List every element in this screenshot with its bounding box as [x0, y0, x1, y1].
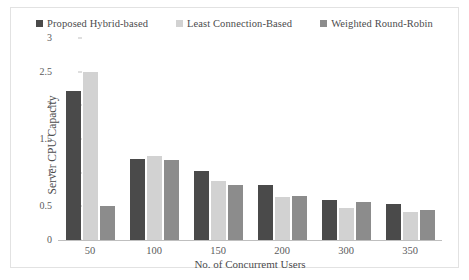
- bar-150-series-0[interactable]: [194, 171, 209, 240]
- bar-group-100: [122, 38, 186, 240]
- y-axis-tick-label: 0.5: [40, 201, 53, 211]
- bar-group-300: [314, 38, 378, 240]
- x-axis-tick-label: 150: [210, 245, 226, 257]
- legend-label: Weighted Round-Robin: [331, 18, 433, 29]
- bar-100-series-2[interactable]: [164, 160, 179, 240]
- bar-200-series-0[interactable]: [258, 185, 273, 240]
- bar-200-series-1[interactable]: [275, 197, 290, 240]
- x-axis-tick-label: 100: [146, 245, 162, 257]
- bar-150-series-2[interactable]: [228, 185, 243, 240]
- bar-350-series-2[interactable]: [420, 210, 435, 240]
- plot-area: [58, 38, 442, 240]
- bar-group-150: [186, 38, 250, 240]
- legend-label: Least Connection-Based: [187, 18, 292, 29]
- y-axis-tick-label: 1.5: [40, 134, 53, 144]
- bar-350-series-1[interactable]: [403, 212, 418, 240]
- bar-100-series-1[interactable]: [147, 156, 162, 240]
- bar-100-series-0[interactable]: [130, 159, 145, 240]
- bar-300-series-0[interactable]: [322, 200, 337, 240]
- x-axis-tick-label: 50: [85, 245, 96, 257]
- x-axis-tick-label: 300: [338, 245, 354, 257]
- legend-label: Proposed Hybrid-based: [47, 18, 148, 29]
- bar-group-50: [58, 38, 122, 240]
- legend-swatch-icon: [176, 20, 183, 27]
- bar-50-series-2[interactable]: [100, 206, 115, 240]
- bar-300-series-1[interactable]: [339, 208, 354, 240]
- bar-50-series-1[interactable]: [83, 72, 98, 240]
- legend-swatch-icon: [320, 20, 327, 27]
- legend-item-2[interactable]: Weighted Round-Robin: [320, 18, 433, 29]
- x-axis-tick-label: 200: [274, 245, 290, 257]
- bar-50-series-0[interactable]: [66, 91, 81, 240]
- bar-200-series-2[interactable]: [292, 196, 307, 240]
- bar-300-series-2[interactable]: [356, 202, 371, 240]
- y-axis-tick-label: 3: [47, 33, 52, 43]
- legend-item-1[interactable]: Least Connection-Based: [176, 18, 292, 29]
- y-axis-tick-label: 2.5: [40, 67, 53, 77]
- bar-group-200: [250, 38, 314, 240]
- x-axis-title: No. of Concurremt Users: [58, 258, 442, 270]
- y-axis-tick-labels: 00.511.522.53: [24, 38, 52, 240]
- y-axis-tick-label: 1: [47, 168, 52, 178]
- bar-150-series-1[interactable]: [211, 181, 226, 240]
- x-axis-line: [58, 240, 442, 241]
- bars-layer: [58, 38, 442, 240]
- legend-item-0[interactable]: Proposed Hybrid-based: [36, 18, 148, 29]
- bar-350-series-0[interactable]: [386, 204, 401, 240]
- bar-group-350: [378, 38, 442, 240]
- legend-swatch-icon: [36, 20, 43, 27]
- y-axis-tick-label: 2: [47, 100, 52, 110]
- x-axis-tick-label: 350: [402, 245, 418, 257]
- chart-legend: Proposed Hybrid-basedLeast Connection-Ba…: [10, 14, 459, 32]
- y-axis-tick-label: 0: [47, 235, 52, 245]
- bar-chart-figure: Proposed Hybrid-basedLeast Connection-Ba…: [0, 0, 469, 280]
